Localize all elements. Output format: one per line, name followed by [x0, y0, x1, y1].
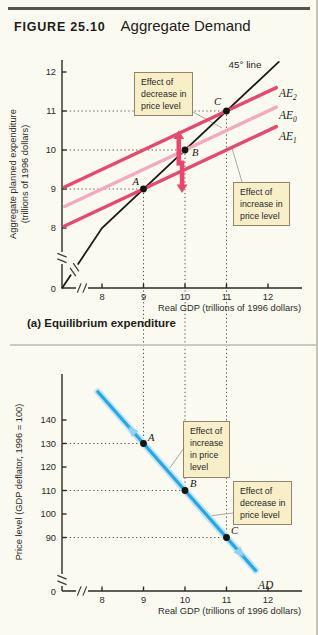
- point-B-a: [182, 147, 189, 154]
- panel-a-caption: (a) Equilibrium expenditure: [27, 317, 176, 329]
- label-AE1: AE1: [278, 130, 297, 145]
- callout-a-1: Effect of increase in price level: [233, 182, 290, 226]
- point-B-b: [182, 487, 189, 494]
- y-tick-label: 12: [46, 67, 56, 77]
- label-AE2: AE2: [278, 87, 297, 102]
- y-tick-label: 130: [40, 439, 56, 449]
- y-axis-title: (trillions of 1996 dollars): [20, 125, 30, 224]
- figure-svg: 89101112891011120Real GDP (trillions of …: [0, 44, 318, 635]
- point-label-A-a: A: [132, 176, 140, 187]
- figure-label: FIGURE 25.10: [14, 20, 106, 34]
- point-A-b: [140, 440, 147, 447]
- x-axis-title: Real GDP (trillions of 1996 dollars): [158, 606, 301, 616]
- x-tick-label: 9: [141, 595, 146, 605]
- top-rule: [8, 7, 310, 10]
- point-C-b: [223, 534, 230, 541]
- x-tick-label: 11: [222, 595, 232, 605]
- x-tick-label: 12: [263, 292, 273, 302]
- y-tick-label: 11: [46, 106, 56, 116]
- callout-b-0: Effect of increase in price level: [183, 421, 230, 478]
- point-label-C-b: C: [231, 525, 239, 536]
- figure-title: Aggregate Demand: [121, 17, 251, 34]
- y-tick-label: 90: [46, 533, 56, 543]
- x-tick-label: 8: [99, 595, 104, 605]
- point-A-a: [140, 186, 147, 193]
- y-tick-label: 110: [41, 486, 56, 496]
- origin-label: 0: [51, 587, 56, 597]
- x-tick-label: 10: [180, 292, 190, 302]
- panel-divider: [10, 344, 318, 346]
- x-axis-title: Real GDP (trillions of 1996 dollars): [158, 303, 301, 313]
- origin-label: 0: [51, 284, 56, 294]
- y-axis-title: Aggregate planned expenditure: [8, 109, 18, 239]
- point-label-B-a: B: [192, 147, 199, 158]
- point-label-A-b: A: [147, 432, 155, 443]
- callout-b-1: Effect of decrease in price level: [233, 481, 292, 525]
- y-tick-label: 100: [40, 509, 56, 519]
- y-tick-label: 140: [40, 415, 56, 425]
- label-AE0: AE0: [278, 109, 297, 124]
- x-tick-label: 11: [222, 292, 232, 302]
- x-tick-label: 8: [99, 292, 104, 302]
- callout-a-0: Effect of decrease in price level: [134, 72, 193, 116]
- y-axis-title: Price level (GDP deflator, 1996 = 100): [14, 404, 24, 561]
- figure-header: FIGURE 25.10 Aggregate Demand: [14, 17, 251, 34]
- point-label-B-b: B: [190, 478, 197, 489]
- point-C-a: [223, 108, 230, 115]
- figure-25-10: FIGURE 25.10 Aggregate Demand 8910111289…: [0, 0, 318, 635]
- y-tick-label: 10: [46, 145, 56, 155]
- page-edge: [316, 0, 318, 635]
- point-label-C-a: C: [214, 96, 222, 107]
- y-tick-label: 8: [51, 223, 56, 233]
- y-tick-label: 120: [40, 462, 56, 472]
- x-tick-label: 12: [263, 595, 273, 605]
- label-AD: AD: [257, 579, 274, 591]
- y-tick-label: 9: [51, 184, 56, 194]
- ae-shift-arrowhead: [177, 184, 188, 193]
- label-45-degree-line: 45° line: [229, 59, 262, 70]
- x-tick-label: 10: [180, 595, 190, 605]
- x-tick-label: 9: [141, 292, 146, 302]
- series-AD: [98, 392, 256, 571]
